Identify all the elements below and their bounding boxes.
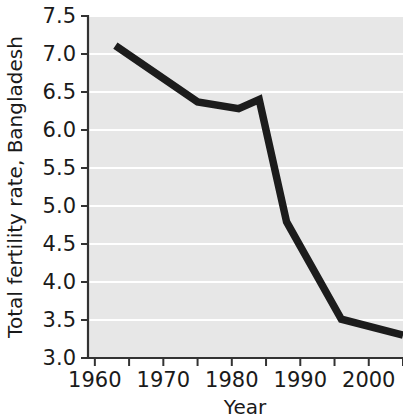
y-tick-label-7: 7.0	[43, 42, 76, 66]
chart-canvas: 3.03.54.04.55.05.56.06.57.07.5 196019701…	[0, 0, 403, 420]
x-tick-label-1980: 1980	[205, 368, 258, 392]
y-axis-title: Total fertility rate, Bangladesh	[3, 36, 27, 339]
fertility-rate-line-chart: 3.03.54.04.55.05.56.06.57.07.5 196019701…	[0, 0, 403, 420]
y-tick-label-3: 3.0	[43, 346, 76, 370]
y-tick-label-6.5: 6.5	[43, 80, 76, 104]
plot-area-background	[88, 16, 403, 358]
y-tick-label-4: 4.0	[43, 270, 76, 294]
x-axis-ticks	[95, 358, 403, 366]
y-tick-label-5: 5.0	[43, 194, 76, 218]
x-tick-label-1960: 1960	[68, 368, 121, 392]
y-tick-label-4.5: 4.5	[43, 232, 76, 256]
y-axis-tick-labels: 3.03.54.04.55.05.56.06.57.07.5	[43, 4, 76, 370]
x-tick-label-2000: 2000	[342, 368, 395, 392]
x-tick-label-1990: 1990	[274, 368, 327, 392]
y-tick-label-6: 6.0	[43, 118, 76, 142]
x-axis-title: Year	[223, 395, 267, 419]
x-tick-label-1970: 1970	[137, 368, 190, 392]
y-tick-label-3.5: 3.5	[43, 308, 76, 332]
y-tick-label-7.5: 7.5	[43, 4, 76, 28]
x-axis-tick-labels: 19601970198019902000	[68, 368, 395, 392]
y-tick-label-5.5: 5.5	[43, 156, 76, 180]
